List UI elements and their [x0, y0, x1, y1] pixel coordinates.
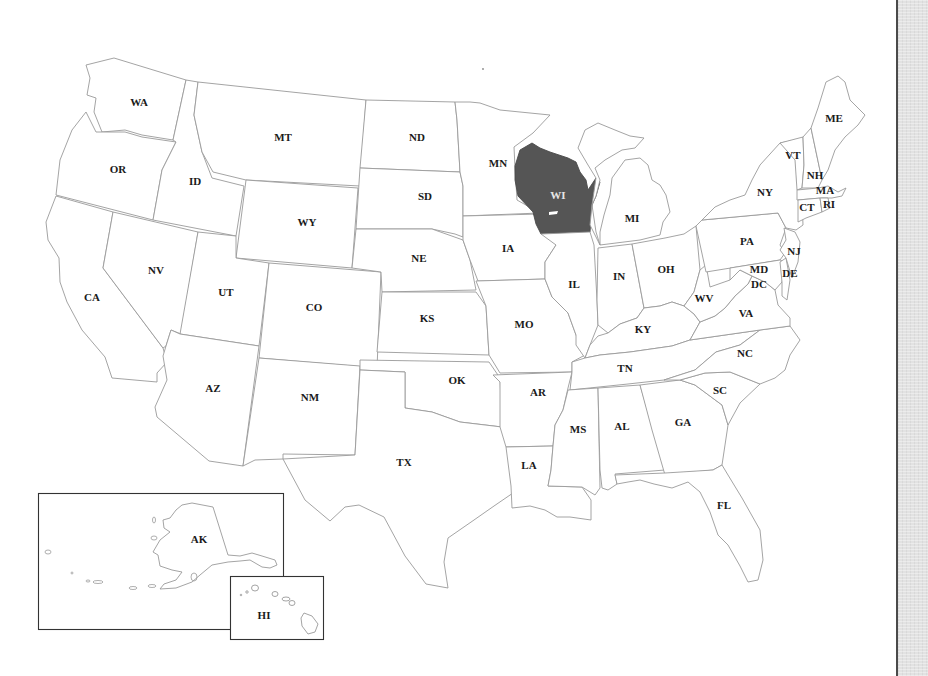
state-fl[interactable] — [615, 465, 763, 582]
state-co[interactable] — [259, 263, 381, 368]
island-niihau — [246, 591, 248, 593]
side-panel — [898, 0, 928, 676]
state-ri[interactable] — [820, 198, 830, 212]
island-oahu — [272, 592, 278, 597]
state-ct[interactable] — [798, 198, 822, 222]
state-mt[interactable] — [194, 82, 366, 186]
state-ks[interactable] — [377, 292, 489, 355]
island-maui — [289, 601, 295, 606]
island-small — [240, 594, 242, 596]
state-wa[interactable] — [86, 58, 186, 140]
state-nd[interactable] — [360, 100, 460, 172]
island-kauai — [252, 585, 259, 591]
state-nm[interactable] — [243, 358, 360, 466]
us-map: WAORCAIDNVMTWYUTAZCONMNDSDNEKSOKTXMNIAMO… — [0, 0, 896, 676]
state-sd[interactable] — [356, 168, 463, 237]
island-molokai — [282, 597, 290, 601]
state-az[interactable] — [155, 330, 259, 466]
map-speck — [482, 68, 484, 70]
state-me[interactable] — [811, 76, 865, 180]
state-wy[interactable] — [236, 180, 358, 268]
